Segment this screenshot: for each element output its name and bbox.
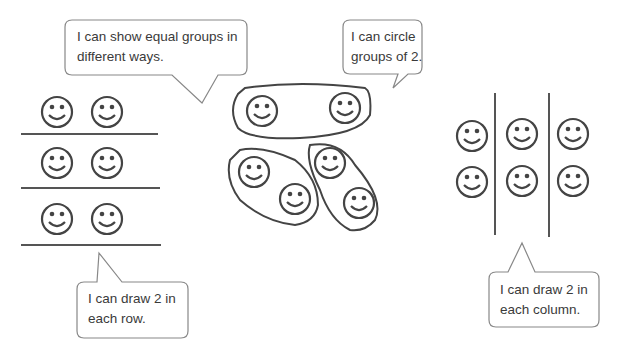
bubble-text-draw-rows: I can draw 2 in each row. [88,289,184,329]
smiley-icon [558,119,588,149]
bubble-text-draw-columns: I can draw 2 in each column. [500,280,598,320]
smiley-icon [280,184,310,214]
columns-arrangement [457,93,588,237]
bubble-text-equal-groups: I can show equal groups in different way… [77,27,247,67]
smiley-icon [42,148,72,178]
smiley-icon [507,166,537,196]
smiley-icon [344,188,374,218]
smiley-icon [42,97,72,127]
smiley-icon [92,148,122,178]
smiley-icon [558,166,588,196]
bubble-text-circle-groups: I can circle groups of 2. [351,27,423,67]
smiley-icon [507,119,537,149]
circles-arrangement [229,84,378,230]
smiley-icon [315,148,345,178]
smiley-icon [42,204,72,234]
smiley-icon [92,204,122,234]
smiley-icon [457,167,487,197]
smiley-icon [239,157,269,187]
smiley-icon [457,121,487,151]
smiley-icon [247,96,277,126]
smiley-icon [92,97,122,127]
smiley-icon [330,93,360,123]
rows-arrangement [21,97,161,245]
